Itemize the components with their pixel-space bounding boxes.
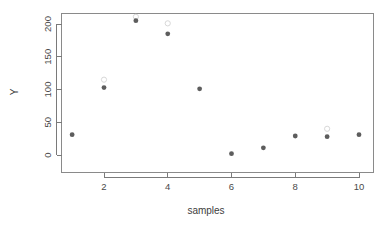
y-tick-label: 50 [42, 117, 53, 128]
data-point [325, 134, 330, 139]
x-tick-label: 2 [101, 181, 106, 192]
x-axis-title: samples [187, 205, 224, 216]
y-tick-label: 200 [42, 16, 53, 32]
figure-background [0, 0, 390, 234]
y-tick-label: 100 [42, 82, 53, 98]
data-point [102, 85, 107, 90]
y-tick-label: 150 [42, 49, 53, 65]
data-point [261, 145, 266, 150]
data-point [357, 132, 362, 137]
x-tick-label: 6 [229, 181, 234, 192]
data-point [165, 31, 170, 36]
scatter-plot-figure: 050100150200 246810 samples Y [0, 0, 390, 234]
x-tick-label: 4 [165, 181, 170, 192]
data-point [133, 18, 138, 23]
x-tick-label: 8 [293, 181, 298, 192]
y-axis-title: Y [9, 88, 20, 95]
x-tick-label: 10 [354, 181, 365, 192]
data-point [197, 86, 202, 91]
data-point [229, 151, 234, 156]
data-point [70, 132, 75, 137]
data-point [293, 134, 298, 139]
plot-canvas: 050100150200 246810 samples Y [0, 0, 390, 234]
y-tick-label: 0 [42, 152, 53, 157]
